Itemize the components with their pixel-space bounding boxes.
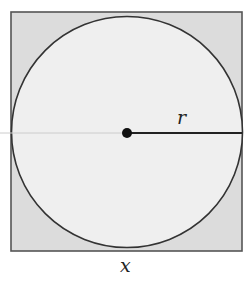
radius-label: r	[177, 108, 186, 127]
figure-canvas	[0, 0, 248, 285]
side-length-label: x	[120, 256, 131, 275]
center-point	[122, 128, 132, 138]
